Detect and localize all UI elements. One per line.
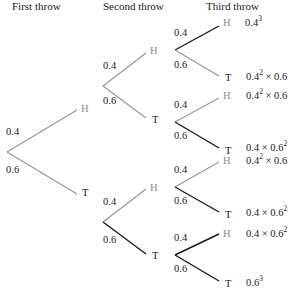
prob-label: 0.6 — [174, 131, 187, 142]
node-t: T — [82, 188, 88, 199]
node-t: T — [225, 73, 231, 84]
node-h: H — [150, 46, 158, 57]
node-t: T — [225, 210, 231, 221]
header-third-throw: Third throw — [206, 1, 259, 12]
outcome-hth: 0.42 × 0.6 — [246, 91, 287, 102]
outcome-tth: 0.4 × 0.62 — [246, 229, 287, 240]
prob-label: 0.6 — [174, 264, 187, 275]
node-h: H — [150, 183, 158, 194]
prob-label: 0.6 — [174, 196, 187, 207]
prob-label: 0.6 — [6, 165, 19, 176]
prob-label: 0.6 — [103, 96, 116, 107]
prob-label: 0.4 — [174, 100, 187, 111]
prob-label: 0.4 — [103, 197, 116, 208]
outcome-htt: 0.4 × 0.62 — [246, 143, 287, 154]
node-t: T — [152, 251, 158, 262]
node-h: H — [223, 229, 231, 240]
prob-label: 0.4 — [6, 127, 19, 138]
outcome-tht: 0.4 × 0.62 — [246, 208, 287, 219]
outcome-ttt: 0.63 — [246, 278, 263, 289]
outcome-hht: 0.42 × 0.6 — [246, 72, 287, 83]
outcome-thh: 0.42 × 0.6 — [246, 156, 287, 167]
outcome-hhh: 0.43 — [245, 18, 262, 29]
node-h: H — [223, 91, 231, 102]
prob-label: 0.6 — [174, 60, 187, 71]
prob-label: 0.4 — [103, 61, 116, 72]
node-t: T — [152, 115, 158, 126]
node-t: T — [225, 279, 231, 290]
node-h: H — [223, 18, 231, 29]
node-h: H — [81, 104, 89, 115]
prob-label: 0.4 — [174, 165, 187, 176]
prob-label: 0.6 — [103, 235, 116, 246]
node-h: H — [223, 156, 231, 167]
header-second-throw: Second throw — [103, 1, 164, 12]
prob-label: 0.4 — [174, 28, 187, 39]
prob-label: 0.4 — [174, 233, 187, 244]
header-first-throw: First throw — [12, 1, 61, 12]
